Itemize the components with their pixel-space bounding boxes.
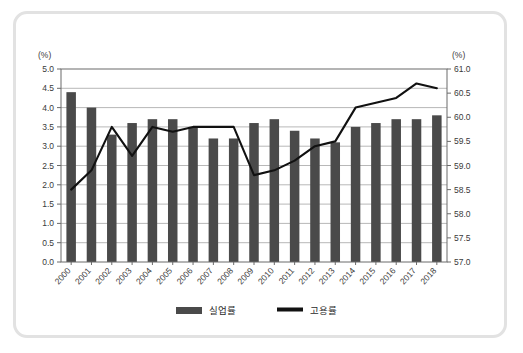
left-axis-tick-label: 1.5: [42, 199, 54, 209]
right-axis-ticks-group: 57.057.558.058.559.059.560.060.561.0: [447, 64, 471, 267]
bar-unemployment-rate: [432, 115, 442, 262]
right-axis-unit-label: (%): [452, 50, 465, 60]
left-axis-unit-group: (%): [38, 50, 51, 60]
bar-unemployment-rate: [229, 138, 239, 262]
x-axis-tick-label: 2006: [174, 265, 194, 286]
right-axis-tick-label: 60.0: [454, 112, 471, 122]
left-axis-ticks-group: 0.00.51.01.52.02.53.03.54.04.55.0: [42, 64, 61, 267]
x-axis-tick-label: 2001: [73, 265, 93, 286]
right-axis-tick-label: 57.0: [454, 257, 471, 267]
x-axis-tick-label: 2005: [154, 265, 174, 286]
legend-swatch-bar: [176, 307, 202, 314]
x-axis-tick-label: 2008: [215, 265, 235, 286]
x-axis-tick-label: 2014: [337, 265, 357, 286]
bar-unemployment-rate: [310, 138, 320, 262]
x-axis-tick-label: 2003: [114, 265, 134, 286]
right-axis-tick-label: 57.5: [454, 233, 471, 243]
bar-unemployment-rate: [127, 123, 137, 262]
legend-swatch-line: [277, 308, 303, 312]
bar-unemployment-rate: [87, 108, 97, 262]
x-axis-tick-label: 2012: [296, 265, 316, 286]
right-axis-tick-label: 59.0: [454, 161, 471, 171]
right-axis-tick-label: 58.0: [454, 209, 471, 219]
left-axis-tick-label: 1.0: [42, 218, 54, 228]
chart-canvas: (%) (%) 0.00.51.01.52.02.53.03.54.04.55.…: [0, 0, 523, 353]
left-axis-tick-label: 0.0: [42, 257, 54, 267]
bar-unemployment-rate: [249, 123, 259, 262]
right-axis-tick-label: 61.0: [454, 64, 471, 74]
bar-unemployment-rate: [148, 119, 158, 262]
bar-unemployment-rate: [209, 138, 219, 262]
left-axis-tick-label: 3.0: [42, 141, 54, 151]
legend-group: 실업률고용률: [176, 305, 337, 316]
bar-unemployment-rate: [290, 131, 300, 262]
left-axis-tick-label: 3.5: [42, 122, 54, 132]
x-axis-tick-label: 2013: [317, 265, 337, 286]
left-axis-tick-label: 5.0: [42, 64, 54, 74]
right-axis-tick-label: 59.5: [454, 136, 471, 146]
x-axis-tick-label: 2016: [378, 265, 398, 286]
x-axis-tick-label: 2009: [235, 265, 255, 286]
screenshot-root: (%) (%) 0.00.51.01.52.02.53.03.54.04.55.…: [0, 0, 523, 353]
left-axis-tick-label: 2.0: [42, 180, 54, 190]
bar-unemployment-rate: [66, 92, 76, 262]
unemployment-bars-group: [66, 92, 441, 262]
left-axis-tick-label: 4.5: [42, 83, 54, 93]
bar-unemployment-rate: [391, 119, 401, 262]
x-axis-tick-label: 2018: [418, 265, 438, 286]
bar-unemployment-rate: [371, 123, 381, 262]
legend-label: 실업률: [209, 305, 236, 316]
x-axis-tick-label: 2015: [357, 265, 377, 286]
bar-unemployment-rate: [107, 135, 117, 262]
left-axis-tick-label: 4.0: [42, 103, 54, 113]
employment-unemployment-chart: (%) (%) 0.00.51.01.52.02.53.03.54.04.55.…: [0, 0, 523, 353]
left-axis-tick-label: 2.5: [42, 161, 54, 171]
bar-unemployment-rate: [351, 127, 361, 262]
right-axis-unit-group: (%): [452, 50, 465, 60]
bar-unemployment-rate: [331, 142, 341, 262]
x-axis-tick-label: 2004: [134, 265, 154, 286]
bar-unemployment-rate: [168, 119, 178, 262]
x-axis-tick-label: 2000: [53, 265, 73, 286]
left-axis-tick-label: 0.5: [42, 238, 54, 248]
x-axis-ticks-group: 2000200120022003200420052006200720082009…: [53, 262, 439, 286]
x-axis-tick-label: 2007: [195, 265, 215, 286]
bar-unemployment-rate: [188, 127, 198, 262]
bar-unemployment-rate: [412, 119, 422, 262]
right-axis-tick-label: 58.5: [454, 185, 471, 195]
x-axis-tick-label: 2011: [276, 265, 296, 285]
x-axis-tick-label: 2017: [398, 265, 418, 286]
legend-label: 고용률: [310, 305, 337, 316]
right-axis-tick-label: 60.5: [454, 88, 471, 98]
x-axis-tick-label: 2010: [256, 265, 276, 286]
x-axis-tick-label: 2002: [93, 265, 113, 286]
left-axis-unit-label: (%): [38, 50, 51, 60]
bar-unemployment-rate: [270, 119, 280, 262]
